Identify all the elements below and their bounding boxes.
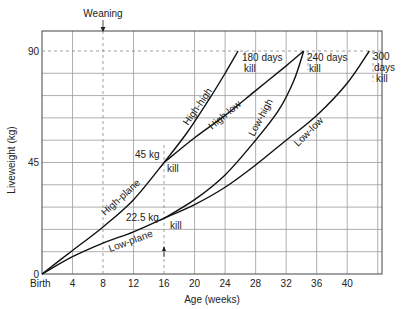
x-axis-label: Age (weeks) <box>184 294 240 305</box>
annotation-22-5kg: 22.5 kg <box>126 212 159 223</box>
y-tick-label: 45 <box>28 157 40 168</box>
y-axis-label: Liveweight (kg) <box>6 126 17 193</box>
liveweight-chart: Birth48121620242832364004590 Weaning Age… <box>0 0 401 309</box>
x-tick-label: 12 <box>128 278 140 289</box>
annotation-300: 300 <box>373 51 390 62</box>
annotation-240-days: 240 days <box>307 52 348 63</box>
annotation-180-days: 180 days <box>242 52 283 63</box>
x-tick-label: 24 <box>220 278 232 289</box>
annotation-240-kill: kill <box>309 63 321 74</box>
label-low-plane: Low-plane <box>107 228 155 254</box>
y-tick-label: 90 <box>28 46 40 57</box>
label-low-high: Low-high <box>246 97 275 138</box>
annotation-300-kill: kill <box>376 73 388 84</box>
x-tick-label: 4 <box>70 278 76 289</box>
annotation-kill-22-5: kill <box>170 220 182 231</box>
x-tick-label: 8 <box>100 278 106 289</box>
annotation-45kg: 45 kg <box>135 149 159 160</box>
y-tick-label: 0 <box>33 269 39 280</box>
x-tick-label: 32 <box>281 278 293 289</box>
annotation-300-days: days <box>374 62 395 73</box>
x-tick-label: 28 <box>250 278 262 289</box>
grid <box>42 31 382 274</box>
x-tick-label: 36 <box>311 278 323 289</box>
x-tick-label: 40 <box>342 278 354 289</box>
weaning-label: Weaning <box>83 8 122 19</box>
x-tick-label: 16 <box>159 278 171 289</box>
axis-ticks: Birth48121620242832364004590 <box>28 46 353 289</box>
annotation-kill-45: kill <box>167 163 179 174</box>
plot-frame <box>42 31 382 274</box>
annotation-180-kill: kill <box>244 63 256 74</box>
x-tick-label: 20 <box>189 278 201 289</box>
arrow-up-icon <box>162 246 166 251</box>
